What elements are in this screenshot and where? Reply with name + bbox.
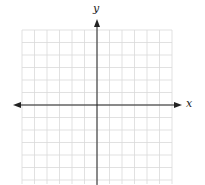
x-axis-label: x [186, 98, 192, 109]
x-axis-left-arrow-icon [13, 102, 21, 108]
y-axis-up-arrow-icon [94, 19, 100, 27]
x-axis-right-arrow-icon [174, 102, 182, 108]
y-axis-label: y [93, 3, 99, 14]
coordinate-plane [0, 0, 205, 185]
